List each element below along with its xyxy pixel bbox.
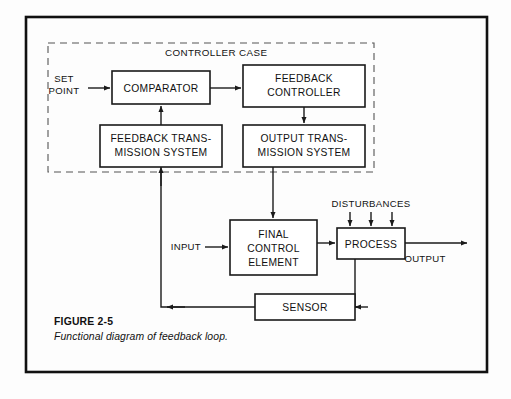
feedback-transmission-label-line2: MISSION SYSTEM (115, 147, 208, 158)
feedback-controller-label-line2: CONTROLLER (267, 87, 340, 98)
process-label: PROCESS (345, 239, 397, 250)
figure-caption-title: FIGURE 2-5 (54, 316, 113, 327)
feedback-controller-label-line1: FEEDBACK (275, 73, 333, 84)
output-transmission-label-line2: MISSION SYSTEM (258, 147, 351, 158)
input-label: INPUT (171, 241, 201, 252)
controller-case-title: CONTROLLER CASE (165, 47, 267, 58)
block-comparator[interactable]: COMPARATOR (112, 71, 210, 104)
output-transmission-label-line1: OUTPUT TRANS- (260, 133, 347, 144)
final-control-label-line1: FINAL (258, 229, 289, 240)
output-label: OUTPUT (404, 253, 445, 264)
block-feedback-transmission-system[interactable]: FEEDBACK TRANS- MISSION SYSTEM (100, 125, 222, 167)
set-point-label-line2: POINT (49, 85, 80, 96)
final-control-label-line3: ELEMENT (248, 257, 299, 268)
block-feedback-controller[interactable]: FEEDBACK CONTROLLER (243, 65, 365, 107)
block-output-transmission-system[interactable]: OUTPUT TRANS- MISSION SYSTEM (243, 125, 365, 167)
sensor-label: SENSOR (282, 302, 327, 313)
feedback-transmission-label-line1: FEEDBACK TRANS- (110, 133, 211, 144)
comparator-label: COMPARATOR (123, 83, 198, 94)
figure-container: CONTROLLER CASE COMPARATOR (0, 0, 511, 399)
block-final-control-element[interactable]: FINAL CONTROL ELEMENT (230, 220, 317, 275)
figure-caption-subtitle: Functional diagram of feedback loop. (54, 331, 228, 342)
block-sensor[interactable]: SENSOR (255, 294, 355, 320)
set-point-label-line1: SET (54, 73, 74, 84)
final-control-label-line2: CONTROL (247, 243, 299, 254)
disturbances-label: DISTURBANCES (332, 198, 411, 209)
block-process[interactable]: PROCESS (337, 228, 405, 259)
